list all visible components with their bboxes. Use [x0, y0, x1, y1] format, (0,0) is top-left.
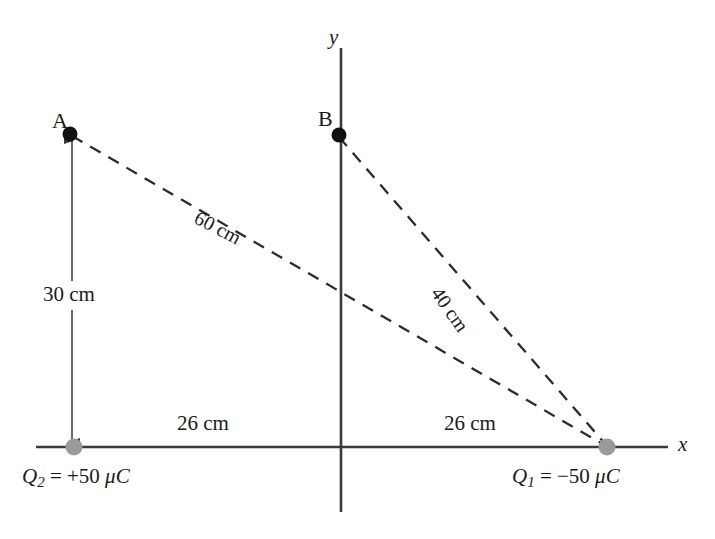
charge-q1-value: −50	[557, 464, 590, 488]
charge-q2-unit: μC	[105, 464, 130, 488]
charge-q1-unit: μC	[595, 464, 620, 488]
charge-q2-subscript: 2	[37, 474, 45, 490]
charge-q1-subscript: 1	[527, 474, 535, 490]
dashed-segment-a-to-q1	[72, 136, 606, 446]
point-b-label: B	[318, 108, 333, 130]
charge-diagram-figure: y x A B 30 cm 26 cm 26 cm 60 cm 40 cm Q2…	[0, 0, 715, 539]
charge-q1-label: Q1 = −50 μC	[512, 466, 620, 490]
y-axis-label: y	[329, 27, 338, 48]
charge-q2-marker	[66, 439, 83, 456]
point-a-label: A	[52, 110, 68, 132]
charge-q2-label: Q2 = +50 μC	[22, 466, 130, 490]
diagram-canvas	[0, 0, 715, 539]
dimension-label-26cm-left: 26 cm	[177, 413, 229, 434]
x-axis-label: x	[678, 434, 687, 455]
charge-q1-equals: =	[540, 464, 552, 488]
dashed-segment-b-to-q1	[339, 137, 607, 446]
charge-q2-symbol: Q	[22, 464, 37, 488]
charge-q2-equals: =	[50, 464, 62, 488]
point-b-marker	[332, 128, 347, 143]
charge-q1-symbol: Q	[512, 464, 527, 488]
charge-q2-value: +50	[67, 464, 100, 488]
charge-q1-marker	[599, 439, 616, 456]
dimension-label-26cm-right: 26 cm	[444, 413, 496, 434]
dimension-label-30cm: 30 cm	[41, 281, 97, 308]
